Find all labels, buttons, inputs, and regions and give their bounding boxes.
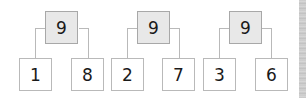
part-box-left: 1 — [19, 58, 52, 91]
whole-value: 9 — [56, 18, 67, 38]
whole-box: 9 — [45, 11, 78, 44]
part-box-left: 2 — [111, 58, 144, 91]
part-box-right: 8 — [71, 58, 104, 91]
part-value: 7 — [173, 65, 184, 85]
whole-box: 9 — [137, 11, 170, 44]
connector-left-down — [127, 28, 128, 58]
whole-box: 9 — [229, 11, 262, 44]
whole-value: 9 — [148, 18, 159, 38]
part-box-right: 6 — [255, 58, 288, 91]
number-bond-1: 9 1 8 — [18, 0, 108, 98]
whole-value: 9 — [240, 18, 251, 38]
connector-left — [35, 28, 45, 29]
part-value: 6 — [266, 65, 277, 85]
number-bond-3: 9 3 6 — [202, 0, 292, 98]
part-value: 1 — [30, 65, 41, 85]
part-box-left: 3 — [203, 58, 236, 91]
part-value: 3 — [214, 65, 225, 85]
page-edge-texture — [299, 0, 306, 98]
connector-left — [219, 28, 229, 29]
number-bond-2: 9 2 7 — [110, 0, 200, 98]
part-value: 8 — [82, 65, 93, 85]
connector-left-down — [219, 28, 220, 58]
part-box-right: 7 — [162, 58, 195, 91]
part-value: 2 — [122, 65, 133, 85]
connector-left — [127, 28, 137, 29]
connector-right-down — [271, 28, 272, 58]
connector-left-down — [35, 28, 36, 58]
connector-right-down — [179, 28, 180, 58]
connector-right-down — [88, 28, 89, 58]
